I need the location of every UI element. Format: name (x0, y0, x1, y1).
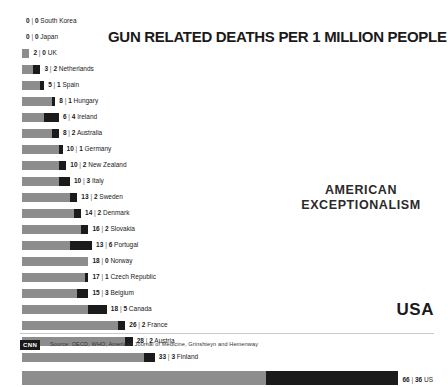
bar-row-label: 6 | 4 Ireland (63, 111, 97, 123)
bar-rows: 0 | 0 South Korea0 | 0 Japan2 | 0 UK3 | … (0, 14, 448, 387)
bar-row: 16 | 2 Slovakia (0, 222, 448, 238)
stacked-bar (22, 353, 155, 362)
bar-segment-suicide (22, 49, 29, 58)
bar-segment-suicide (22, 321, 118, 330)
chart-footer: CNN Source: OECD, WHO, American Journal … (0, 333, 448, 353)
bar-row-label: 0 | 0 South Korea (26, 15, 77, 27)
bar-row: 17 | 1 Czech Republic (0, 270, 448, 286)
bar-segment-homicide (144, 353, 155, 362)
bar-row-label: 5 | 1 Spain (48, 79, 79, 91)
stacked-bar (22, 305, 107, 314)
bar-row: 14 | 2 Denmark (0, 206, 448, 222)
bar-row-label: 14 | 2 Denmark (85, 207, 129, 219)
bar-segment-suicide (22, 177, 59, 186)
bar-segment-homicide (33, 65, 40, 74)
stacked-bar (22, 145, 63, 154)
stacked-bar (22, 113, 59, 122)
bar-segment-homicide (118, 321, 125, 330)
bar-row-label: 0 | 0 Japan (26, 31, 58, 43)
bar-segment-homicide (44, 113, 59, 122)
bar-segment-suicide (22, 353, 144, 362)
bar-segment-suicide (22, 305, 88, 314)
stacked-bar (22, 65, 40, 74)
bar-row-label: 10 | 3 Italy (74, 175, 104, 187)
bar-row-label: 8 | 2 Australia (63, 127, 102, 139)
footer-divider (20, 333, 434, 334)
bar-segment-suicide (22, 97, 52, 106)
stacked-bar (22, 257, 88, 266)
bar-segment-homicide (40, 81, 44, 90)
stacked-bar (22, 371, 398, 385)
stacked-bar (22, 177, 70, 186)
bar-segment-suicide (22, 241, 70, 250)
bar-segment-suicide (22, 81, 40, 90)
bar-segment-homicide (52, 97, 56, 106)
stacked-bar (22, 81, 44, 90)
bar-row-label: 15 | 3 Belgium (92, 287, 133, 299)
bar-row-label: 17 | 1 Czech Republic (92, 271, 156, 283)
bar-segment-homicide (77, 289, 88, 298)
bar-row-label: 3 | 2 Netherlands (44, 63, 93, 75)
bar-segment-homicide (70, 193, 77, 202)
bar-segment-homicide (59, 177, 70, 186)
stacked-bar (22, 161, 66, 170)
bar-row-label: 8 | 1 Hungary (59, 95, 98, 107)
bar-row-label: 16 | 2 Slovakia (92, 223, 135, 235)
bar-segment-suicide (22, 225, 81, 234)
bar-row: 3 | 2 Netherlands (0, 62, 448, 78)
bar-segment-suicide (22, 273, 85, 282)
bar-row: 13 | 6 Portugal (0, 238, 448, 254)
bar-row-label: 10 | 2 New Zealand (70, 159, 126, 171)
bar-row: 10 | 2 New Zealand (0, 158, 448, 174)
bar-row: 26 | 2 France (0, 318, 448, 334)
stacked-bar (22, 321, 125, 330)
bar-segment-suicide (22, 193, 70, 202)
bar-segment-homicide (85, 273, 89, 282)
cnn-logo: CNN (20, 340, 40, 350)
usa-bar-row: 66 | 36 US (0, 369, 448, 387)
bar-row: 15 | 3 Belgium (0, 286, 448, 302)
bar-row-label: 2 | 0 UK (33, 47, 56, 59)
bar-row-label: 18 | 5 Canada (111, 303, 152, 315)
bar-row-label: 13 | 6 Portugal (96, 239, 138, 251)
bar-segment-suicide (22, 161, 59, 170)
bar-row: 13 | 2 Sweden (0, 190, 448, 206)
stacked-bar (22, 193, 77, 202)
bar-row: 6 | 4 Ireland (0, 110, 448, 126)
bar-segment-homicide (266, 371, 399, 385)
bar-segment-suicide (22, 65, 33, 74)
bar-row: 2 | 0 UK (0, 46, 448, 62)
stacked-bar (22, 273, 88, 282)
bar-segment-suicide (22, 113, 44, 122)
bar-segment-suicide (22, 289, 77, 298)
stacked-bar (22, 289, 88, 298)
bar-segment-suicide (22, 257, 88, 266)
bar-row: 5 | 1 Spain (0, 78, 448, 94)
source-text: Source: OECD, WHO, American Journal of M… (50, 341, 258, 347)
bar-segment-homicide (70, 241, 92, 250)
stacked-bar (22, 129, 59, 138)
bar-segment-suicide (22, 129, 52, 138)
bar-segment-homicide (88, 305, 106, 314)
bar-row: 8 | 1 Hungary (0, 94, 448, 110)
bar-row-label: 13 | 2 Sweden (81, 191, 122, 203)
bar-row-label: 10 | 1 Germany (67, 143, 112, 155)
bar-segment-suicide (22, 145, 59, 154)
bar-segment-homicide (81, 225, 88, 234)
bar-segment-suicide (22, 371, 266, 385)
bar-row: 8 | 2 Australia (0, 126, 448, 142)
bar-segment-homicide (59, 161, 66, 170)
stacked-bar (22, 49, 29, 58)
bar-row: 18 | 0 Norway (0, 254, 448, 270)
bar-row: 10 | 3 Italy (0, 174, 448, 190)
bar-row: 0 | 0 South Korea (0, 14, 448, 30)
bar-segment-homicide (59, 145, 63, 154)
bar-segment-homicide (74, 209, 81, 218)
stacked-bar (22, 225, 88, 234)
stacked-bar (22, 97, 55, 106)
bar-row-label: 66 | 36 US (402, 374, 433, 386)
bar-segment-homicide (52, 129, 59, 138)
bar-segment-suicide (22, 209, 74, 218)
bar-row: 10 | 1 Germany (0, 142, 448, 158)
